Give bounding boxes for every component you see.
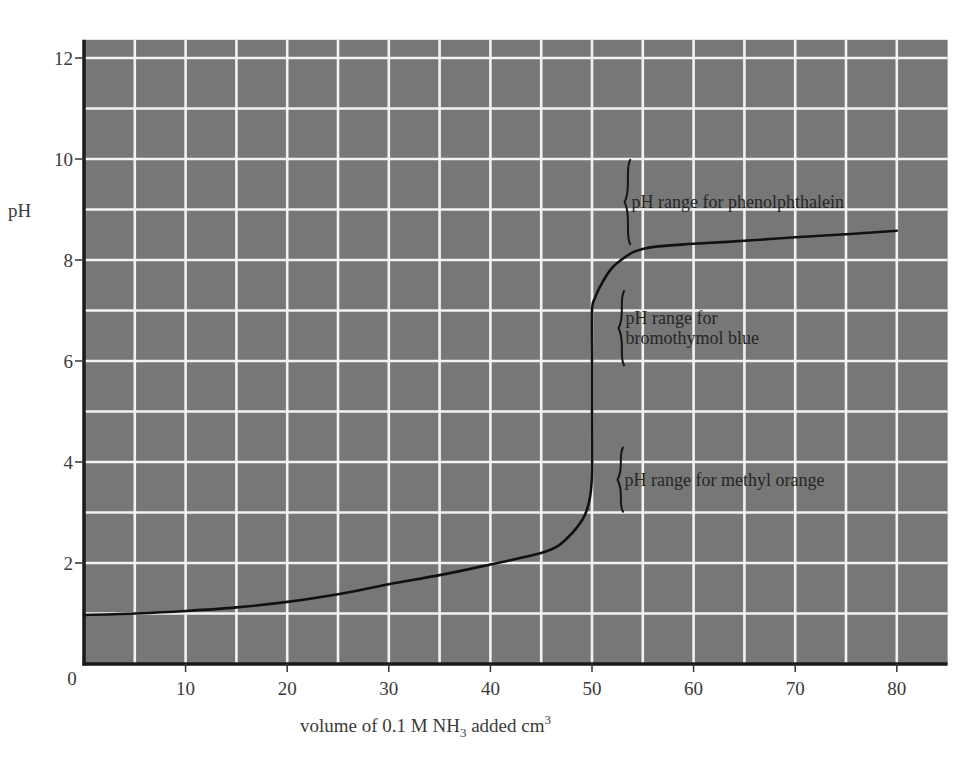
x-tick-label: 50 xyxy=(583,678,602,699)
x-tick-label: 0 xyxy=(67,668,77,689)
y-tick-label: 8 xyxy=(64,250,74,271)
x-tick-label: 60 xyxy=(684,678,703,699)
annotation-label: pH range for phenolphthalein xyxy=(632,192,844,212)
x-tick-label: 10 xyxy=(176,678,195,699)
annotation-label: bromothymol blue xyxy=(625,328,759,348)
x-axis-title-main: volume of 0.1 M NH xyxy=(300,715,460,736)
x-axis-title-after: added cm xyxy=(466,715,544,736)
x-tick-label: 70 xyxy=(786,678,805,699)
y-tick-label: 6 xyxy=(64,351,74,372)
x-tick-label: 30 xyxy=(379,678,398,699)
annotation-label: pH range for xyxy=(625,308,717,328)
plot-area xyxy=(84,40,948,664)
plot-background xyxy=(84,40,948,664)
y-tick-label: 12 xyxy=(54,48,73,69)
x-tick-label: 80 xyxy=(887,678,906,699)
x-tick-label: 20 xyxy=(278,678,297,699)
titration-chart: 0102030405060708024681012 pH range for p… xyxy=(0,0,980,773)
chart-canvas: 0102030405060708024681012 pH range for p… xyxy=(0,0,980,773)
x-axis-title: volume of 0.1 M NH3 added cm3 xyxy=(300,712,551,740)
annotation-label: pH range for methyl orange xyxy=(624,470,824,490)
y-tick-label: 4 xyxy=(64,452,74,473)
y-tick-label: 2 xyxy=(64,553,74,574)
x-tick-label: 40 xyxy=(481,678,500,699)
y-axis-title: pH xyxy=(8,200,32,221)
x-axis-title-superscript: 3 xyxy=(544,712,551,727)
y-tick-label: 10 xyxy=(54,149,73,170)
